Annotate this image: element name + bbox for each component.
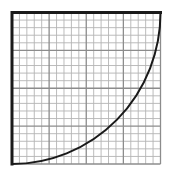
graph-paper-diagram: [0, 0, 169, 171]
